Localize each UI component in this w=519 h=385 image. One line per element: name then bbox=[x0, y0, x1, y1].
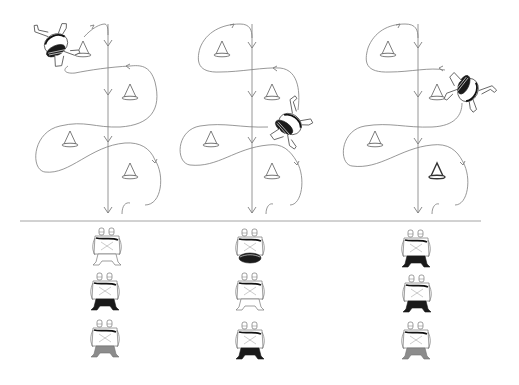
path-arrow-icon bbox=[439, 66, 443, 71]
cone-icon bbox=[367, 41, 445, 179]
path-arrow-icon bbox=[396, 24, 400, 28]
cone-icon bbox=[62, 41, 138, 179]
skydiver-icon bbox=[440, 68, 497, 117]
skydiver-icon bbox=[32, 13, 81, 70]
formation-column-3 bbox=[402, 230, 432, 359]
formation-icon bbox=[91, 320, 120, 357]
path-arrow-icon bbox=[273, 66, 277, 71]
cone-icon bbox=[203, 41, 280, 179]
flight-path bbox=[343, 24, 468, 214]
formation-icon bbox=[403, 275, 432, 312]
panel-3 bbox=[343, 24, 497, 214]
formation-icon bbox=[236, 322, 265, 359]
panel-2 bbox=[180, 24, 320, 214]
formation-icon bbox=[236, 273, 265, 310]
formation-icon bbox=[402, 230, 431, 267]
path-arrow-icon bbox=[230, 24, 234, 28]
panel-1 bbox=[32, 13, 160, 214]
formation-icon bbox=[236, 229, 265, 263]
formation-column-2 bbox=[236, 229, 265, 359]
skydiver-icon bbox=[266, 95, 320, 153]
formation-column-1 bbox=[91, 228, 122, 357]
slalom-drill-diagram bbox=[0, 0, 519, 385]
formation-icon bbox=[402, 322, 431, 359]
formation-icon bbox=[91, 273, 120, 310]
formation-icon bbox=[93, 228, 122, 265]
